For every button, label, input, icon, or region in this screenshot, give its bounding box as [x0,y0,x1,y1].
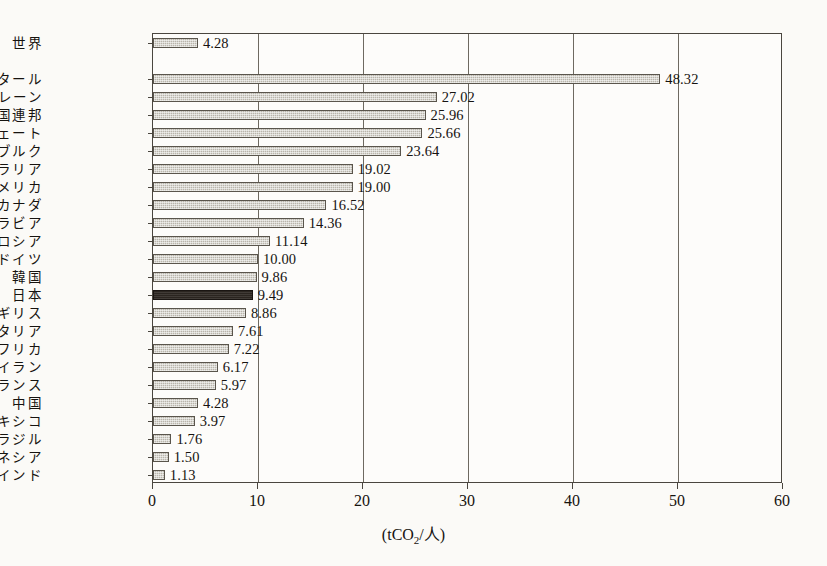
bar-value-label: 10.00 [263,250,296,267]
y-axis-tick [148,115,153,116]
category-label: インドネシア [0,446,43,466]
unit-suffix: /人) [419,526,445,543]
category-label: カナダ [0,194,43,214]
bar [153,398,198,408]
bar-value-label: 7.61 [238,322,264,339]
category-label: ドイツ [0,248,43,268]
bar-row: 7.61 [153,326,781,336]
category-label: サウジアラビア [0,212,43,232]
x-axis-tick [257,483,258,489]
y-axis-tick [148,205,153,206]
y-axis-tick [148,403,153,404]
bar-row: 10.00 [153,254,781,264]
category-label: ロシア [0,230,43,250]
bar [153,164,353,174]
bar-value-label: 48.32 [665,70,698,87]
category-label: アメリカ [0,176,43,196]
bar [153,416,195,426]
category-label: 中国 [12,392,43,412]
category-label: 韓国 [12,266,43,286]
bar [153,200,326,210]
x-axis-tick-label: 50 [669,492,685,510]
y-axis-tick [148,439,153,440]
bar [153,362,218,372]
bar [153,110,426,120]
bar-value-label: 7.22 [234,340,260,357]
bar-chart: 4.2848.3227.0225.9625.6623.6419.0219.001… [0,0,827,566]
bar-value-label: 5.97 [221,376,247,393]
bar-row: 1.13 [153,470,781,480]
bar-row: 25.66 [153,128,781,138]
bar [153,218,304,228]
bar [153,452,169,462]
bar-row: 27.02 [153,92,781,102]
y-axis-tick [148,133,153,134]
x-axis-unit-label: (tCO2/人) [0,521,827,546]
bar-value-label: 1.13 [170,466,196,483]
x-axis-tick [572,483,573,489]
bar [153,182,353,192]
y-axis-tick [148,385,153,386]
bar [153,344,229,354]
y-axis-tick [148,151,153,152]
bar [153,128,422,138]
category-label: ルクセンブルク [0,140,43,160]
bar-row: 23.64 [153,146,781,156]
bar [153,470,165,480]
bar-value-label: 9.49 [258,286,284,303]
y-axis-tick [148,187,153,188]
x-axis-tick [467,483,468,489]
y-axis-tick [148,223,153,224]
x-axis-tick [677,483,678,489]
x-axis-tick-label: 10 [249,492,265,510]
x-axis-tick-label: 30 [459,492,475,510]
category-label: インド [0,464,43,484]
bar-value-label: 14.36 [309,214,342,231]
bar [153,308,246,318]
category-label: フランス [0,374,43,394]
y-axis-tick [148,43,153,44]
bar-value-label: 4.28 [203,394,229,411]
bar-value-label: 4.28 [203,34,229,51]
bar-value-label: 19.00 [358,178,391,195]
bar-row: 48.32 [153,74,781,84]
bar [153,272,257,282]
category-label: イギリス [0,302,43,322]
bar-row: 7.22 [153,344,781,354]
y-axis-tick [148,169,153,170]
category-label: ブラジル [0,428,43,448]
y-axis-tick [148,259,153,260]
y-axis-tick [148,277,153,278]
x-axis-tick [362,483,363,489]
category-label: 南アフリカ [0,338,43,358]
bar-value-label: 1.50 [174,448,200,465]
bar-value-label: 16.52 [331,196,364,213]
category-label: メキシコ [0,410,43,430]
category-label: イタリア [0,320,43,340]
category-label: 日本 [12,284,43,304]
bar-value-label: 23.64 [406,142,439,159]
bar-value-label: 25.96 [431,106,464,123]
category-label: オーストラリア [0,158,43,178]
bar-row: 9.49 [153,290,781,300]
bar-row: 4.28 [153,38,781,48]
bar-row: 16.52 [153,200,781,210]
category-label: アラブ首長国連邦 [0,104,43,124]
category-label: バーレーン [0,86,43,106]
bar-value-label: 1.76 [176,430,202,447]
bar [153,38,198,48]
bar-value-label: 11.14 [275,232,308,249]
bar [153,380,216,390]
bar-row: 9.86 [153,272,781,282]
bar-value-label: 9.86 [262,268,288,285]
y-axis-tick [148,241,153,242]
bar [153,326,233,336]
x-axis-tick-label: 60 [774,492,790,510]
bar-row: 11.14 [153,236,781,246]
bar-value-label: 8.86 [251,304,277,321]
x-axis-tick-label: 20 [354,492,370,510]
bar [153,92,437,102]
bar-row: 8.86 [153,308,781,318]
bar-row: 5.97 [153,380,781,390]
bar-row: 6.17 [153,362,781,372]
